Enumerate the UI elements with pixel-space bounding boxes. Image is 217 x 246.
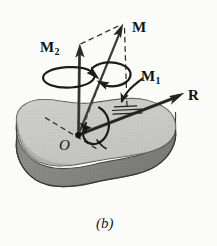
label-M2-subscript: 2: [55, 46, 60, 57]
label-moment-resultant: M: [132, 20, 146, 35]
figure-illustration: [0, 0, 217, 246]
label-M1-base: M: [141, 68, 155, 84]
label-moment-tangential: M1: [141, 69, 161, 86]
figure-caption: (b): [96, 216, 114, 231]
label-R-text: R: [188, 87, 199, 103]
figure-panel-b: M M2 M1 R O (b): [0, 0, 217, 246]
spin-about-M-ellipse: [92, 62, 131, 86]
rigid-body-slab: [16, 98, 176, 186]
figure-caption-text: (b): [96, 215, 114, 231]
label-M-text: M: [132, 19, 146, 35]
label-M1-subscript: 1: [156, 75, 161, 86]
label-force-resultant: R: [188, 88, 199, 103]
origin-point: [75, 132, 81, 138]
label-M2-base: M: [40, 39, 54, 55]
label-moment-normal: M2: [40, 40, 60, 57]
spin-about-M2: [43, 66, 100, 87]
label-origin: O: [59, 138, 70, 153]
spin-about-M2-ellipse: [43, 67, 95, 88]
label-O-text: O: [59, 137, 70, 153]
